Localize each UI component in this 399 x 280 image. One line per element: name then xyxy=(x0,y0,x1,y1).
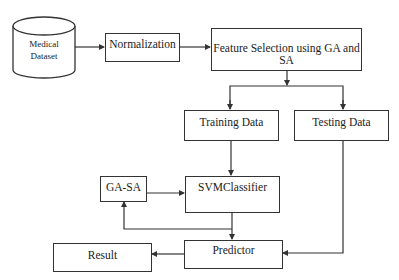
result-label: Result xyxy=(54,249,151,261)
dataset-node: Medical Dataset xyxy=(13,38,75,62)
testing-data-node: Testing Data xyxy=(294,110,389,141)
result-node: Result xyxy=(53,243,152,272)
training-data-label: Training Data xyxy=(185,116,278,128)
testing-data-label: Testing Data xyxy=(295,116,388,128)
gasa-node: GA-SA xyxy=(100,176,147,202)
svm-classifier-node: SVMClassifier xyxy=(185,176,280,213)
predictor-label: Predictor xyxy=(185,244,282,256)
dataset-label-line1: Medical xyxy=(13,38,75,50)
predictor-node: Predictor xyxy=(184,240,283,269)
feature-selection-label: Feature Selection using GA and SA xyxy=(212,42,361,66)
edge-split xyxy=(230,86,343,109)
normalization-node: Normalization xyxy=(105,33,180,62)
edge-testing-predictor xyxy=(283,141,343,253)
gasa-label: GA-SA xyxy=(101,181,146,193)
dataset-label-line2: Dataset xyxy=(13,50,75,62)
normalization-label: Normalization xyxy=(106,38,179,50)
svm-classifier-label: SVMClassifier xyxy=(186,181,279,193)
feature-selection-node: Feature Selection using GA and SA xyxy=(211,28,362,71)
training-data-node: Training Data xyxy=(184,110,279,141)
